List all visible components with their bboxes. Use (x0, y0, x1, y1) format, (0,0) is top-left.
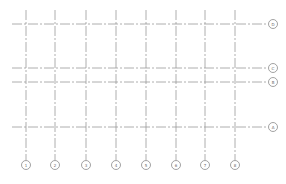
grid-bubble-label: C (272, 66, 275, 71)
grid-drawing-canvas: 12345678 DCBA (0, 0, 286, 184)
grid-bubble-label: 4 (115, 163, 118, 168)
horizontal-grid-A[interactable]: A (12, 123, 278, 132)
vertical-grid-2[interactable]: 2 (51, 10, 60, 170)
grid-bubble-label: 6 (175, 163, 178, 168)
grid-bubble-label: 5 (145, 163, 148, 168)
grid-bubble-label: 3 (85, 163, 88, 168)
grid-bubble-label: A (272, 125, 275, 130)
grid-bubble-label: 8 (234, 163, 237, 168)
vertical-grid-lines: 12345678 (22, 10, 240, 170)
vertical-grid-1[interactable]: 1 (22, 10, 31, 170)
horizontal-grid-B[interactable]: B (12, 78, 278, 87)
vertical-grid-7[interactable]: 7 (201, 10, 210, 170)
horizontal-grid-C[interactable]: C (12, 64, 278, 73)
vertical-grid-3[interactable]: 3 (82, 10, 91, 170)
grid-bubble-label: 1 (25, 163, 28, 168)
horizontal-grid-lines: DCBA (12, 20, 278, 132)
vertical-grid-8[interactable]: 8 (231, 10, 240, 170)
grid-bubble-label: 2 (54, 163, 57, 168)
grid-bubble-label: 7 (204, 163, 207, 168)
grid-bubble-label: D (271, 22, 274, 27)
vertical-grid-6[interactable]: 6 (172, 10, 181, 170)
vertical-grid-4[interactable]: 4 (112, 10, 121, 170)
vertical-grid-5[interactable]: 5 (142, 10, 151, 170)
horizontal-grid-D[interactable]: D (12, 20, 278, 29)
grid-bubble-label: B (272, 80, 275, 85)
